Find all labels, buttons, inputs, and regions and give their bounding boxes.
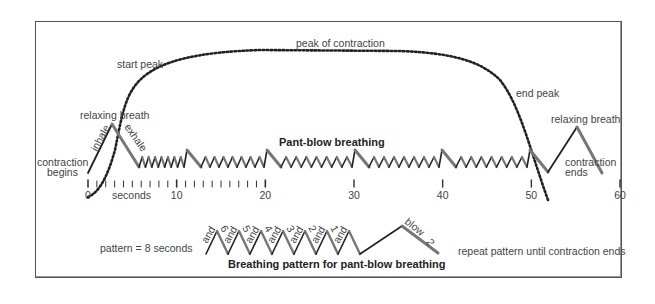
pant-down-segment <box>471 157 476 167</box>
pant-down-segment <box>296 157 301 167</box>
tick-label: 0 <box>85 189 91 201</box>
pant-down-segment <box>414 157 419 167</box>
tick-label: 30 <box>348 189 360 201</box>
pant-down-segment <box>347 157 352 167</box>
pant-down-segment <box>404 157 409 167</box>
pant-blow-diagram: peak of contraction start peak end peak … <box>0 0 655 304</box>
pant-down-segment <box>149 157 152 167</box>
blow-exhale-segment <box>267 150 281 167</box>
pant-down-segment <box>481 157 486 167</box>
pattern-and-label: and <box>198 224 217 245</box>
relaxing-breath-start-label: relaxing breath <box>80 109 150 121</box>
pant-down-segment <box>174 157 177 167</box>
blow-up-segment <box>184 150 187 167</box>
pant-up-segment <box>332 157 337 167</box>
pant-up-segment <box>246 157 251 167</box>
pant-up-segment <box>237 157 242 167</box>
pant-up-segment <box>291 157 296 167</box>
pattern-count-labels: and6and5and4and3and2and1andblow2 <box>198 215 437 248</box>
pant-down-segment <box>215 157 220 167</box>
pant-up-segment <box>517 157 522 167</box>
tick-label: 50 <box>525 189 537 201</box>
seconds-axis-label: seconds <box>112 189 151 201</box>
pant-up-segment <box>389 157 394 167</box>
relaxing-breath-end-label: relaxing breath <box>551 113 621 125</box>
pant-down-segment <box>206 157 211 167</box>
pant-down-segment <box>384 157 389 167</box>
pant-down-segment <box>337 157 342 167</box>
pant-up-segment <box>281 157 286 167</box>
pant-down-segment <box>327 157 332 167</box>
blow-exhale-segment <box>530 150 548 172</box>
peak-of-contraction-label: peak of contraction <box>296 37 385 49</box>
pant-up-segment <box>228 157 233 167</box>
pant-down-segment <box>424 157 429 167</box>
pant-up-segment <box>399 157 404 167</box>
blow-exhale-segment <box>187 150 201 167</box>
pattern-title: Breathing pattern for pant-blow breathin… <box>228 258 446 270</box>
pant-up-segment <box>322 157 327 167</box>
contraction-ends-label-2: ends <box>565 166 588 178</box>
pant-up-segment <box>369 157 374 167</box>
pant-up-segment <box>409 157 414 167</box>
end-peak-label: end peak <box>516 87 560 99</box>
blow-up-segment <box>527 150 530 167</box>
tick-label: 40 <box>437 189 449 201</box>
pant-up-segment <box>379 157 384 167</box>
pant-down-segment <box>260 157 265 167</box>
pant-down-segment <box>251 157 256 167</box>
blow-exhale-segment <box>442 150 456 167</box>
start-peak-label: start peak <box>117 58 164 70</box>
pant-up-segment <box>429 157 434 167</box>
tick-label: 60 <box>614 189 626 201</box>
pant-up-segment <box>255 157 260 167</box>
pant-up-segment <box>301 157 306 167</box>
pant-up-segment <box>219 157 224 167</box>
inhale-label: inhale <box>88 122 112 153</box>
pant-down-segment <box>522 157 527 167</box>
pant-up-segment <box>311 157 316 167</box>
blow-up-segment <box>439 150 442 167</box>
pant-down-segment <box>168 157 171 167</box>
contraction-begins-label-2: begins <box>47 166 78 178</box>
blow-up-segment <box>264 150 267 167</box>
pant-up-segment <box>486 157 491 167</box>
pant-down-segment <box>434 157 439 167</box>
pant-down-segment <box>317 157 322 167</box>
pant-down-segment <box>162 157 165 167</box>
pant-up-segment <box>419 157 424 167</box>
pant-blow-title: Pant-blow breathing <box>279 136 385 148</box>
pant-up-segment <box>456 157 461 167</box>
pant-down-segment <box>461 157 466 167</box>
pattern-duration-label: pattern = 8 seconds <box>100 242 193 254</box>
pant-down-segment <box>394 157 399 167</box>
pant-up-segment <box>466 157 471 167</box>
tick-label: 10 <box>171 189 183 201</box>
blow-exhale-segment <box>355 150 369 167</box>
pattern-down-segment <box>349 231 360 254</box>
pant-up-segment <box>210 157 215 167</box>
contraction-intensity-curve <box>88 50 548 200</box>
pant-down-segment <box>224 157 229 167</box>
pant-down-segment <box>306 157 311 167</box>
pant-down-segment <box>142 157 145 167</box>
tick-label: 20 <box>259 189 271 201</box>
pant-up-segment <box>342 157 347 167</box>
pant-up-segment <box>507 157 512 167</box>
pant-up-segment <box>497 157 502 167</box>
pant-up-segment <box>476 157 481 167</box>
pattern-blow-up-segment <box>360 226 402 254</box>
pant-down-segment <box>286 157 291 167</box>
pant-down-segment <box>512 157 517 167</box>
pant-down-segment <box>155 157 158 167</box>
repeat-pattern-note: repeat pattern until contraction ends <box>458 245 626 257</box>
pant-down-segment <box>492 157 497 167</box>
blow-up-segment <box>352 150 355 167</box>
pant-down-segment <box>374 157 379 167</box>
pant-down-segment <box>502 157 507 167</box>
pant-up-segment <box>201 157 206 167</box>
pant-down-segment <box>233 157 238 167</box>
pant-down-segment <box>242 157 247 167</box>
